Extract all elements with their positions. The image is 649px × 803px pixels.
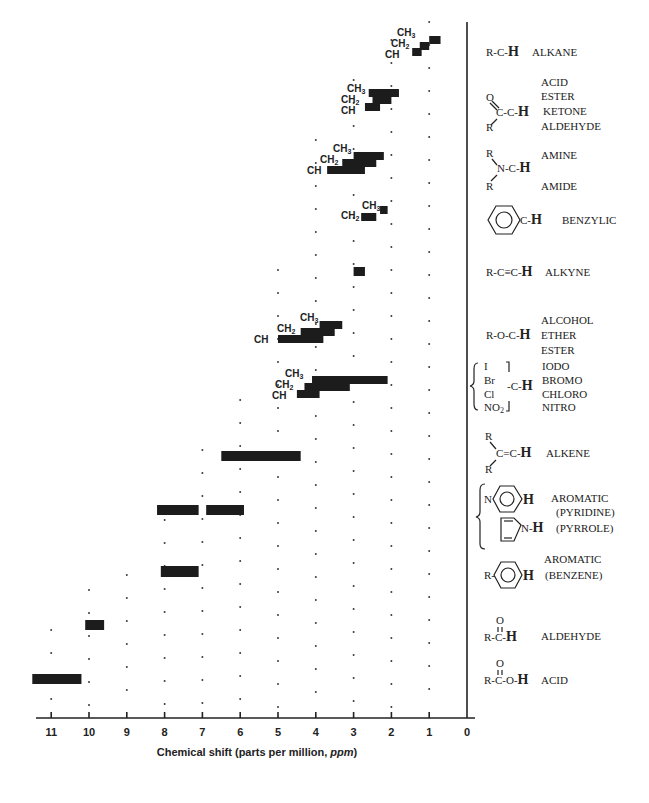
shift-bar-amine-amide-ch <box>327 166 365 174</box>
grid-dot <box>277 706 279 708</box>
grid-dot <box>50 652 52 654</box>
svg-text:R-C-O-H: R-C-O-H <box>484 672 529 687</box>
grid-dot <box>277 568 279 570</box>
grid-dot <box>390 614 392 616</box>
legend-alcohol-ether-ester: ALCOHOL R-O-C-H ETHER ESTER <box>486 314 594 356</box>
svg-text:O: O <box>496 657 504 669</box>
shift-bar-alcohol-ether-ester-ch <box>278 335 323 343</box>
grid-dot <box>353 263 355 265</box>
svg-text:N: N <box>484 493 492 505</box>
svg-text:CH: CH <box>341 105 355 116</box>
dotted-gridlines <box>50 21 430 708</box>
svg-text:ALKENE: ALKENE <box>546 447 590 459</box>
grid-dot <box>126 574 128 576</box>
svg-text:N-H: N-H <box>521 520 544 535</box>
grid-dot <box>277 683 279 685</box>
grid-dot <box>164 680 166 682</box>
grid-dot <box>390 223 392 225</box>
svg-text:C-C-H: C-C-H <box>496 104 529 119</box>
legend-benzene: AROMATIC R- H (BENZENE) <box>484 553 603 588</box>
grid-dot <box>277 269 279 271</box>
shift-bar-halide-nitro-ch <box>297 390 320 398</box>
svg-text:ALKYNE: ALKYNE <box>545 266 590 278</box>
svg-text:ESTER: ESTER <box>541 344 575 356</box>
legend-alkane: R-C-H ALKANE <box>486 44 577 59</box>
grid-dot <box>390 200 392 202</box>
svg-text:R: R <box>486 147 494 159</box>
grid-dot <box>428 228 430 230</box>
grid-dot <box>428 573 430 575</box>
grid-dot <box>164 634 166 636</box>
grid-dot <box>353 493 355 495</box>
svg-text:CHLORO: CHLORO <box>542 388 587 400</box>
benzene-ring-icon <box>488 206 520 234</box>
grid-dot <box>239 606 241 608</box>
grid-dot <box>390 706 392 708</box>
grid-dot <box>428 435 430 437</box>
svg-text:CH: CH <box>272 390 286 401</box>
grid-dot <box>353 677 355 679</box>
grid-dot <box>428 527 430 529</box>
grid-dot <box>201 587 203 589</box>
grid-dot <box>428 90 430 92</box>
grid-dot <box>164 657 166 659</box>
x-tick-label: 3 <box>351 726 357 738</box>
grid-dot <box>315 484 317 486</box>
x-tick-label: 10 <box>83 726 95 738</box>
grid-dot <box>390 637 392 639</box>
grid-dot <box>353 562 355 564</box>
x-tick-label: 7 <box>199 726 205 738</box>
grid-dot <box>428 688 430 690</box>
grid-dot <box>390 154 392 156</box>
grid-dot <box>277 361 279 363</box>
grid-dot <box>353 447 355 449</box>
grid-dot <box>88 658 90 660</box>
legend-benzylic: C-H BENZYLIC <box>488 206 616 234</box>
shift-bar-alkane-ch3 <box>429 36 440 44</box>
x-tick-label: 2 <box>388 726 394 738</box>
grid-dot <box>390 545 392 547</box>
grid-dot <box>390 85 392 87</box>
legend-alkyne: R-C≡C-H ALKYNE <box>486 264 590 279</box>
benzene-ring-icon <box>494 562 522 588</box>
grid-dot <box>428 274 430 276</box>
grid-dot <box>390 384 392 386</box>
shift-range-bars <box>32 36 440 684</box>
grid-dot <box>239 652 241 654</box>
svg-text:CH: CH <box>307 165 321 176</box>
svg-text:I: I <box>484 360 488 372</box>
grid-dot <box>239 399 241 401</box>
shift-bar-benzylic-ch3 <box>380 206 388 214</box>
grid-dot <box>201 541 203 543</box>
grid-dot <box>390 568 392 570</box>
grid-dot <box>315 346 317 348</box>
grid-dot <box>390 660 392 662</box>
grid-dot <box>353 286 355 288</box>
grid-dot <box>428 297 430 299</box>
grid-dot <box>428 320 430 322</box>
grid-dot <box>390 338 392 340</box>
grid-dot <box>390 522 392 524</box>
grid-dot <box>239 537 241 539</box>
grid-dot <box>315 668 317 670</box>
svg-text:R: R <box>485 430 493 442</box>
grid-dot <box>353 470 355 472</box>
x-tick-label: 1 <box>426 726 432 738</box>
grid-dot <box>428 412 430 414</box>
grid-dot <box>353 240 355 242</box>
grid-dot <box>390 315 392 317</box>
grid-dot <box>390 430 392 432</box>
x-axis-title: Chemical shift (parts per million, ppm) <box>157 746 358 758</box>
shift-bar-halide-nitro-ch2 <box>304 383 349 391</box>
svg-text:CH3: CH3 <box>300 312 318 324</box>
svg-text:KETONE: KETONE <box>543 105 587 117</box>
grid-dot <box>88 589 90 591</box>
grid-dot <box>390 269 392 271</box>
grid-dot <box>277 545 279 547</box>
grid-dot <box>390 108 392 110</box>
grid-dot <box>428 159 430 161</box>
grid-dot <box>353 631 355 633</box>
grid-dot <box>353 148 355 150</box>
svg-text:ETHER: ETHER <box>541 329 577 341</box>
svg-text:AROMATIC: AROMATIC <box>544 553 601 565</box>
